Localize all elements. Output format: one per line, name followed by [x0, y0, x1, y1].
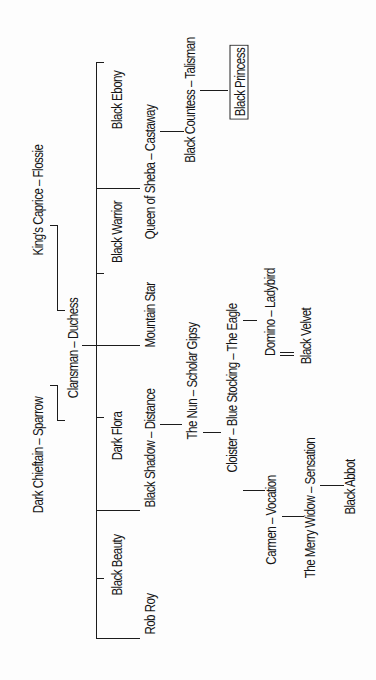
- queen-of-sheba-castaway-label: Queen of Sheba – Castaway: [143, 105, 157, 239]
- clansman-duchess-label: Clansman – Duchess: [66, 298, 80, 398]
- connector-line: [282, 516, 304, 517]
- black-ebony-label: Black Ebony: [110, 71, 124, 129]
- cloister-blue-stocking-the-eagle-label: Cloister – Blue Stocking – The Eagle: [225, 303, 239, 472]
- branch-line: [96, 638, 140, 639]
- black-beauty-label: Black Beauty: [110, 534, 124, 595]
- connector-line: [160, 424, 182, 425]
- black-warrior-label: Black Warrior: [110, 201, 124, 263]
- connector-line: [57, 225, 58, 311]
- main-spine-line: [96, 62, 97, 639]
- connector-line: [280, 355, 294, 356]
- connector-line: [57, 310, 65, 311]
- branch-line: [96, 345, 140, 346]
- connector-line: [243, 490, 265, 491]
- kings-caprice-flossie-label: King's Caprice – Flossie: [31, 145, 45, 256]
- black-shadow-distance-label: Black Shadow – Distance: [143, 389, 157, 508]
- connector-line: [280, 352, 294, 353]
- branch-line: [96, 510, 140, 511]
- the-nun-scholar-gipsy-label: The Nun – Scholar Gipsy: [185, 323, 199, 440]
- pedigree-diagram: Dark Chieftain – Sparrow King's Caprice …: [0, 0, 376, 680]
- connector-line: [57, 420, 65, 421]
- black-abbot-label: Black Abbot: [343, 459, 357, 514]
- branch-tick: [96, 578, 104, 579]
- domino-ladybird-label: Domino – Ladybird: [263, 268, 277, 356]
- branch-line: [96, 62, 104, 63]
- mountain-star-label: Mountain Star: [143, 282, 157, 347]
- carmen-vocation-label: Carmen – Vocation: [264, 475, 278, 564]
- rob-roy-label: Rob Roy: [143, 593, 157, 634]
- connector-line: [203, 432, 221, 433]
- connector-line: [82, 345, 96, 346]
- the-merry-widow-sensation-label: The Merry Widow – Sensation: [303, 438, 317, 578]
- black-princess-highlighted-label: Black Princess: [230, 45, 249, 120]
- dark-flora-label: Dark Flora: [110, 412, 124, 461]
- connector-line: [320, 485, 344, 486]
- branch-tick: [96, 273, 104, 274]
- connector-line: [57, 385, 58, 421]
- black-velvet-label: Black Velvet: [299, 308, 313, 365]
- black-countess-talisman-label: Black Countess – Talisman: [183, 37, 197, 162]
- connector-line: [160, 131, 184, 132]
- connector-line: [243, 320, 257, 321]
- branch-line: [96, 188, 140, 189]
- branch-tick: [96, 417, 104, 418]
- connector-line: [200, 90, 228, 91]
- dark-chieftain-sparrow-label: Dark Chieftain – Sparrow: [31, 397, 45, 513]
